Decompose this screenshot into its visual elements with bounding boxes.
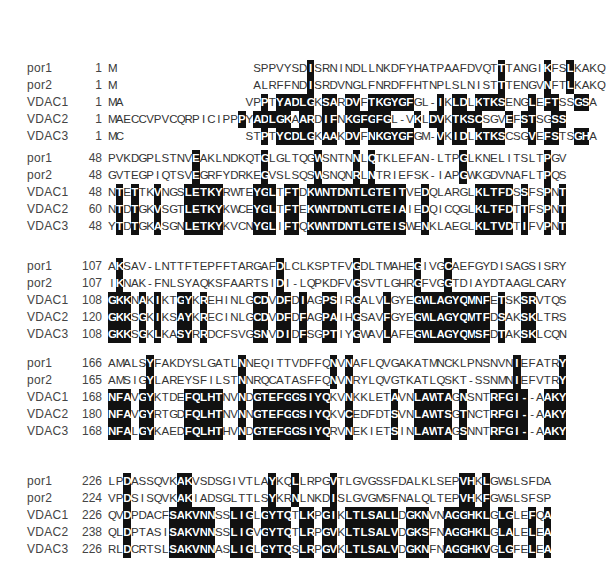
residue: A <box>299 111 307 128</box>
sequence-name: por1 <box>27 258 52 275</box>
residue: G <box>246 326 254 343</box>
sequence-name: por2 <box>27 275 52 292</box>
residue: P <box>322 326 330 343</box>
residue: D <box>291 326 299 343</box>
residue: L <box>345 541 353 558</box>
residue: L <box>215 372 223 389</box>
residue: F <box>223 326 231 343</box>
residue: A <box>123 389 131 406</box>
residue: N <box>238 389 246 406</box>
residue: K <box>184 473 192 490</box>
residue: V <box>330 473 338 490</box>
residue: K <box>544 60 552 77</box>
residue: I <box>437 201 445 218</box>
residue: N <box>345 389 353 406</box>
residue: D <box>490 167 498 184</box>
residue: C <box>253 309 261 326</box>
residue: T <box>116 184 124 201</box>
residue: Q <box>299 150 307 167</box>
residue: S <box>566 128 574 145</box>
residue: A <box>161 355 169 372</box>
sequence-name: VDAC3 <box>27 218 69 235</box>
residue: W <box>314 218 322 235</box>
residue: E <box>406 309 414 326</box>
residue <box>184 94 192 111</box>
residue <box>192 60 200 77</box>
residue-start-number: 48 <box>72 218 102 235</box>
residue: I <box>230 473 238 490</box>
residue: E <box>192 218 200 235</box>
residue: S <box>299 406 307 423</box>
residue: I <box>391 218 399 235</box>
residue: G <box>459 184 467 201</box>
residue: L <box>528 94 536 111</box>
residue: S <box>375 473 383 490</box>
residue: - <box>398 111 406 128</box>
residue: G <box>253 258 261 275</box>
residue: F <box>284 201 292 218</box>
residue: N <box>345 184 353 201</box>
residue: V <box>559 150 567 167</box>
residue: F <box>528 473 536 490</box>
residue: D <box>459 94 467 111</box>
residue: I <box>406 201 414 218</box>
residue: F <box>521 167 529 184</box>
residue: E <box>536 524 544 541</box>
residue: T <box>139 524 147 541</box>
residue: L <box>345 490 353 507</box>
residue: E <box>452 218 460 235</box>
residue: T <box>429 60 437 77</box>
residue: T <box>559 184 567 201</box>
residue-start-number: 226 <box>72 541 102 558</box>
residue: R <box>223 184 231 201</box>
residue: E <box>383 201 391 218</box>
residue: H <box>223 423 231 440</box>
residue-start-number: 1 <box>72 128 102 145</box>
residue: C <box>284 128 292 145</box>
residue: K <box>146 184 154 201</box>
residue: L <box>459 77 467 94</box>
residue: A <box>161 372 169 389</box>
residue: G <box>368 111 376 128</box>
residue: C <box>475 406 483 423</box>
residue: C <box>345 406 353 423</box>
residue: L <box>383 292 391 309</box>
sequence-row: VDAC348YTDTGKASGNLETKYKVCNYGLIFTQKWNTDNT… <box>0 218 564 235</box>
residue: F <box>116 406 124 423</box>
residue: E <box>513 77 521 94</box>
residue: D <box>337 218 345 235</box>
residue: D <box>398 473 406 490</box>
residue: G <box>459 541 467 558</box>
residue: T <box>498 275 506 292</box>
residue: G <box>391 355 399 372</box>
residue: S <box>521 309 529 326</box>
residue: G <box>108 326 116 343</box>
residue: E <box>444 490 452 507</box>
residue: F <box>268 258 276 275</box>
residue: D <box>276 275 284 292</box>
residue: H <box>207 406 215 423</box>
residue: K <box>528 309 536 326</box>
residue: D <box>459 128 467 145</box>
residue: S <box>498 94 506 111</box>
residue: F <box>360 94 368 111</box>
residue: S <box>169 541 177 558</box>
residue: N <box>467 406 475 423</box>
residue: D <box>123 218 131 235</box>
residue <box>200 94 208 111</box>
residue: A <box>536 389 544 406</box>
residue: P <box>192 111 200 128</box>
residue <box>161 94 169 111</box>
residue: P <box>116 490 124 507</box>
residue: - <box>429 150 437 167</box>
residue: N <box>238 355 246 372</box>
residue: A <box>513 167 521 184</box>
residue: A <box>437 309 445 326</box>
residue: N <box>307 490 315 507</box>
sequence-row: VDAC3226RLDCRTSLSAKVNNASLIGLGYTQSLRPGVKL… <box>0 541 564 558</box>
residue: S <box>299 389 307 406</box>
residue: A <box>131 275 139 292</box>
residue: L <box>566 77 574 94</box>
residue: L <box>360 524 368 541</box>
residue: G <box>223 490 231 507</box>
